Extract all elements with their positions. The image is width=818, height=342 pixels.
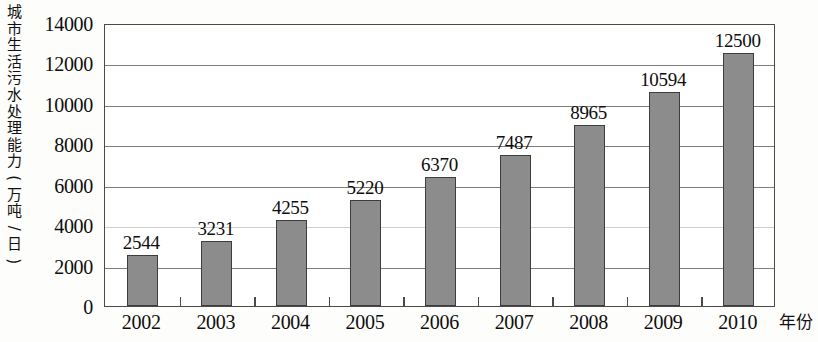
- x-tick-label: 2002: [101, 312, 181, 332]
- x-tick-label: 2007: [474, 312, 554, 332]
- bar: [127, 255, 158, 306]
- y-tick-label: 8000: [0, 135, 99, 155]
- y-axis-tick-labels: 02000400060008000100001200014000: [0, 0, 99, 342]
- y-tick-label: 12000: [0, 54, 99, 74]
- x-tick-label: 2009: [623, 312, 703, 332]
- bar-value-label: 12500: [698, 31, 778, 50]
- x-tick-mark: [254, 297, 256, 306]
- bar: [649, 92, 680, 306]
- bar: [500, 155, 531, 306]
- bar: [723, 53, 754, 306]
- x-tick-label: 2008: [549, 312, 629, 332]
- x-tick-mark: [180, 297, 182, 306]
- x-tick-mark: [403, 297, 405, 306]
- bar-value-label: 2544: [101, 233, 181, 252]
- gridline: [105, 65, 774, 66]
- bar-value-label: 7487: [474, 133, 554, 152]
- x-tick-label: 2010: [698, 312, 778, 332]
- x-tick-mark: [478, 297, 480, 306]
- bar-value-label: 3231: [176, 219, 256, 238]
- bar-value-label: 10594: [623, 70, 703, 89]
- x-tick-mark: [627, 297, 629, 306]
- y-tick-label: 10000: [0, 95, 99, 115]
- y-tick-label: 4000: [0, 216, 99, 236]
- y-tick-label: 14000: [0, 14, 99, 34]
- x-tick-label: 2003: [176, 312, 256, 332]
- bar-value-label: 4255: [250, 198, 330, 217]
- bar: [276, 220, 307, 306]
- x-tick-label: 2004: [250, 312, 330, 332]
- bar: [350, 200, 381, 306]
- bar-chart-figure: 城市生活污水处理能力(万吨/日) 02000400060008000100001…: [0, 0, 818, 342]
- bar: [425, 177, 456, 306]
- x-tick-label: 2005: [325, 312, 405, 332]
- bar-value-label: 5220: [325, 178, 405, 197]
- x-tick-mark: [701, 297, 703, 306]
- bar-value-label: 6370: [400, 155, 480, 174]
- y-tick-label: 0: [0, 297, 99, 317]
- bar-value-label: 8965: [549, 103, 629, 122]
- bar: [574, 125, 605, 306]
- bar: [201, 241, 232, 306]
- x-tick-label: 2006: [400, 312, 480, 332]
- x-tick-mark: [552, 297, 554, 306]
- x-tick-mark: [329, 297, 331, 306]
- y-tick-label: 2000: [0, 257, 99, 277]
- x-axis-title: 年份: [779, 313, 813, 332]
- y-tick-label: 6000: [0, 176, 99, 196]
